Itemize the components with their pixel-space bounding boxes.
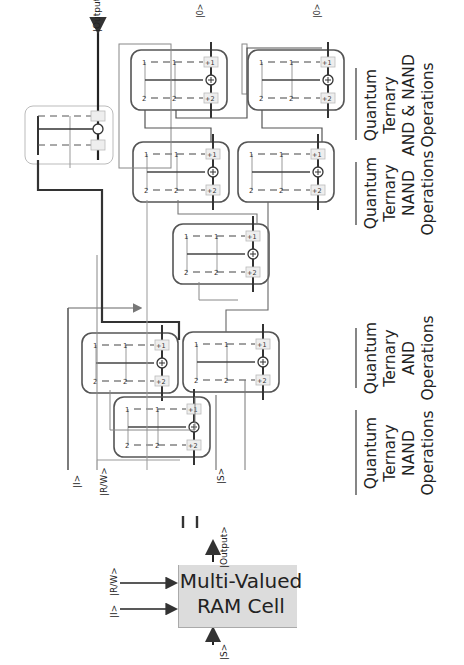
ram-input-rw-label: |R/W> [109, 567, 119, 596]
gate-block-3 [133, 134, 229, 210]
input-s-label: |S> [216, 468, 226, 484]
svg-text:|0>: |0> [196, 4, 205, 19]
ram-output-label: |Output> [219, 526, 229, 568]
gate-block-6 [82, 325, 178, 401]
gate-block-5 [173, 216, 269, 292]
svg-text:|0>: |0> [313, 4, 322, 19]
ram-cell-title-line2: RAM Cell [179, 594, 303, 619]
input-rw-label: |R/W> [99, 467, 109, 496]
gate-block-4 [238, 134, 334, 210]
circuit-output-label: |Output> [92, 0, 102, 32]
gate-block-2 [248, 42, 344, 118]
group-label-and: QuantumTernaryANDOperations [362, 263, 438, 453]
ram-input-i-label: |I> [109, 605, 119, 618]
ram-cell-title-line1: Multi-Valued [179, 569, 303, 594]
output-gate-block [25, 30, 113, 168]
ram-cell-box: Multi-Valued RAM Cell [178, 565, 297, 628]
gate-block-7 [183, 324, 279, 400]
ram-select-label: |S> [219, 644, 229, 660]
gate-block-1 [131, 42, 227, 118]
group-label-and-nand: QuantumTernaryAND & NANDOperations [362, 10, 438, 200]
input-i-label: |I> [72, 475, 82, 488]
